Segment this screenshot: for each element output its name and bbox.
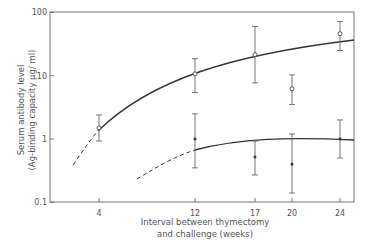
open-circle-marker <box>193 72 197 76</box>
y-tick-label: 10 <box>37 72 47 81</box>
filled-square-marker <box>194 138 197 141</box>
y-tick-label: 0.1 <box>34 198 47 207</box>
data-point <box>337 21 343 50</box>
lower-fit-curve <box>195 139 354 150</box>
data-point <box>289 134 295 193</box>
data-point <box>96 115 102 141</box>
x-axis-label-line2: and challenge (weeks) <box>157 229 253 239</box>
x-axis-label-line1: Interval between thymectomy <box>141 217 270 227</box>
y-tick-label: 100 <box>32 8 47 17</box>
x-tick-label: 20 <box>287 209 297 218</box>
plot-frame <box>50 12 354 202</box>
x-axis-ticks: 412172024 <box>96 198 345 218</box>
filled-square-marker <box>254 156 257 159</box>
filled-square-marker <box>339 138 342 141</box>
open-circle-marker <box>253 53 257 57</box>
open-circle-marker <box>290 87 294 91</box>
data-point <box>192 59 198 93</box>
lower-fit-curve-extrapolated <box>137 150 195 179</box>
y-axis-label-line2: (Ag-binding capacity μg/ ml) <box>27 50 37 171</box>
y-tick-label: 1 <box>42 135 47 144</box>
data-point <box>252 141 258 175</box>
fit-curves <box>73 40 354 179</box>
data-point <box>289 75 295 105</box>
upper-fit-curve-extrapolated <box>73 131 98 165</box>
y-axis-label-line1: Serum antibody level <box>16 65 26 156</box>
plot-border <box>50 12 354 202</box>
open-circle-marker <box>97 126 101 130</box>
chart: 0.1110100 412172024 Serum antibody level… <box>0 0 368 247</box>
data-point <box>252 26 258 82</box>
x-tick-label: 24 <box>335 209 345 218</box>
filled-square-marker <box>291 163 294 166</box>
open-circle-marker <box>338 32 342 36</box>
x-tick-label: 4 <box>96 209 101 218</box>
upper-fit-curve <box>98 40 354 131</box>
data-point <box>192 114 198 168</box>
